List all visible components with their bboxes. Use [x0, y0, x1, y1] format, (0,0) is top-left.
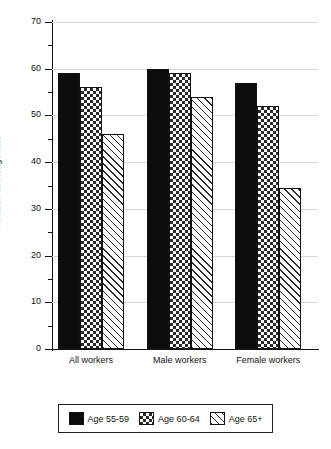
x-category-label: All workers: [41, 355, 141, 366]
y-tick-major: [45, 162, 52, 163]
y-tick-label-text: 50: [15, 110, 41, 119]
bar: [191, 97, 213, 349]
legend-label: Age 65+: [229, 414, 263, 424]
plot-area: [52, 22, 318, 349]
y-tick-major: [45, 69, 52, 70]
legend-label: Age 55-59: [88, 414, 130, 424]
bar: [169, 73, 191, 349]
legend-label: Age 60-64: [158, 414, 200, 424]
legend-swatch-icon: [69, 412, 84, 425]
legend-item: Age 65+: [205, 412, 268, 425]
x-category-label: Male workers: [130, 355, 230, 366]
y-tick-major: [45, 256, 52, 257]
y-tick-major: [45, 209, 52, 210]
bar: [147, 69, 169, 349]
bar: [279, 188, 301, 349]
legend: Age 55-59Age 60-64Age 65+: [58, 404, 273, 433]
y-axis-title: Pension coverage rate: [0, 112, 2, 252]
y-tick-label-text: 40: [15, 157, 41, 166]
y-tick-label-text: 20: [15, 251, 41, 260]
bar-chart-figure: Pension coverage rate 010203040506070 Al…: [0, 0, 331, 449]
y-tick-label-text: 0: [15, 344, 41, 353]
y-tick-label-text: 60: [15, 64, 41, 73]
y-tick-label-text: 10: [15, 297, 41, 306]
bar: [102, 134, 124, 349]
bar: [80, 87, 102, 349]
legend-swatch-icon: [139, 412, 154, 425]
y-tick-major: [45, 22, 52, 23]
bar: [235, 83, 257, 349]
legend-item: Age 55-59: [64, 412, 135, 425]
bar: [58, 73, 80, 349]
y-tick-major: [45, 115, 52, 116]
x-axis-line: [52, 349, 319, 350]
y-tick-major: [45, 302, 52, 303]
bar: [257, 106, 279, 349]
legend-swatch-icon: [210, 412, 225, 425]
x-category-label: Female workers: [218, 355, 318, 366]
y-tick-label-text: 70: [15, 17, 41, 26]
legend-item: Age 60-64: [134, 412, 205, 425]
y-tick-major: [45, 349, 52, 350]
gridline: [52, 69, 318, 70]
y-tick-label-text: 30: [15, 204, 41, 213]
gridline: [52, 22, 318, 23]
